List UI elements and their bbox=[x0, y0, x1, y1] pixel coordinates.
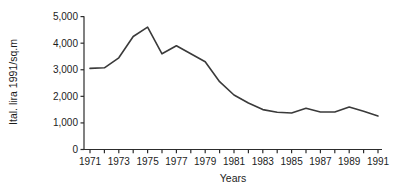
x-tick-label: 1989 bbox=[338, 156, 361, 167]
x-tick-label: 1977 bbox=[165, 156, 188, 167]
line-chart-figure: 01,0002,0003,0004,0005,00019711973197519… bbox=[0, 0, 406, 193]
y-tick-label: 3,000 bbox=[53, 64, 78, 75]
series-layer bbox=[90, 27, 378, 116]
x-axis-title: Years bbox=[220, 172, 246, 184]
y-tick-label: 5,000 bbox=[53, 11, 78, 22]
y-tick-label: 0 bbox=[72, 144, 78, 155]
y-axis-title: Ital. lira 1991/sq.m bbox=[7, 39, 19, 125]
x-tick-label: 1985 bbox=[280, 156, 303, 167]
x-tick-label: 1981 bbox=[223, 156, 246, 167]
y-tick-label: 2,000 bbox=[53, 91, 78, 102]
axes-layer: 01,0002,0003,0004,0005,00019711973197519… bbox=[53, 11, 390, 166]
x-tick-label: 1979 bbox=[194, 156, 217, 167]
line-chart: 01,0002,0003,0004,0005,00019711973197519… bbox=[0, 0, 406, 193]
x-tick-label: 1971 bbox=[79, 156, 102, 167]
y-tick-label: 1,000 bbox=[53, 117, 78, 128]
x-tick-label: 1983 bbox=[252, 156, 275, 167]
x-tick-label: 1975 bbox=[136, 156, 159, 167]
x-tick-label: 1991 bbox=[367, 156, 390, 167]
x-tick-label: 1987 bbox=[309, 156, 332, 167]
y-tick-label: 4,000 bbox=[53, 38, 78, 49]
data-line bbox=[90, 27, 378, 116]
x-tick-label: 1973 bbox=[108, 156, 131, 167]
